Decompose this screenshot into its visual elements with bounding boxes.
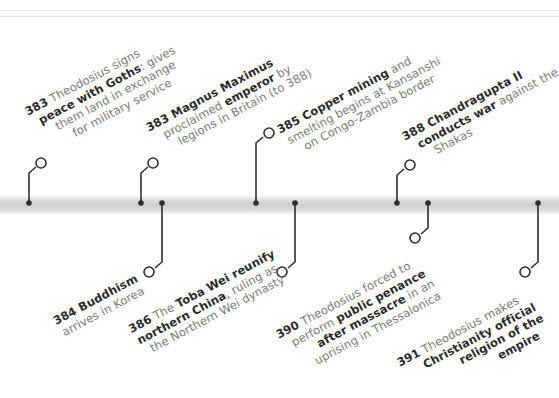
connector-390 (410, 200, 431, 243)
connector-388 (394, 160, 415, 206)
connector-384 (144, 200, 165, 277)
connector-383-maximus (138, 158, 158, 206)
connector-391 (520, 200, 541, 277)
connector-385 (253, 128, 274, 206)
connector-383-theodosius (26, 158, 46, 206)
